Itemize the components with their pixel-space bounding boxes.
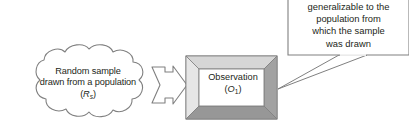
observation-box-label: Observation (O1) — [196, 72, 270, 97]
callout-line-2: population from — [289, 13, 408, 25]
callout-line-4: was drawn — [289, 38, 408, 50]
cloud-line-2: drawn from a population — [26, 77, 150, 88]
block-arrow-shape — [152, 66, 187, 104]
callout-line-1: generalizable to the — [289, 1, 408, 13]
diagram-canvas: Random sample drawn from a population (R… — [0, 0, 409, 132]
cloud-symbol: (Rs) — [26, 89, 150, 102]
observation-symbol: (O1) — [196, 84, 270, 97]
cloud-line-1: Random sample — [26, 66, 150, 77]
callout-line-3: which the sample — [289, 25, 408, 37]
generalizability-callout-label: generalizable to the population from whi… — [289, 1, 408, 50]
random-sample-cloud-label: Random sample drawn from a population (R… — [26, 66, 150, 102]
callout-tail — [278, 55, 367, 89]
observation-line-1: Observation — [196, 72, 270, 84]
